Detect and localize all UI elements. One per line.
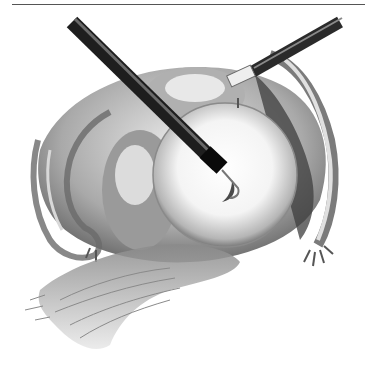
pelvic-floor-tissue [25, 244, 240, 349]
medical-illustration [0, 0, 365, 376]
laparoscopic-grasper-right [227, 18, 342, 87]
